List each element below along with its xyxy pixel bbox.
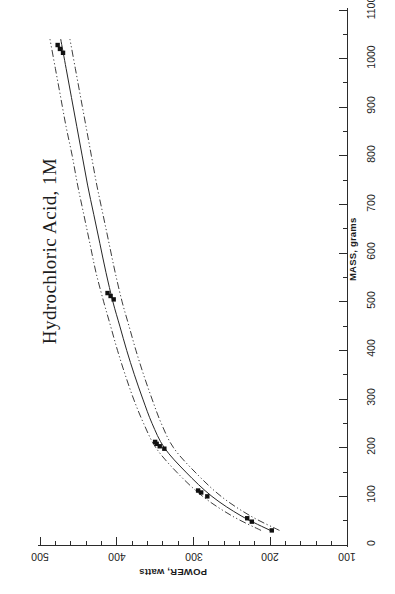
data-point	[205, 494, 209, 498]
data-point	[55, 43, 59, 47]
data-point	[105, 291, 109, 295]
data-point	[196, 488, 200, 492]
plot-area	[0, 0, 395, 594]
data-point	[58, 47, 62, 51]
data-point	[162, 447, 166, 451]
data-point	[270, 528, 274, 532]
data-point	[250, 519, 254, 523]
curve-group	[50, 39, 279, 530]
data-point	[245, 516, 249, 520]
data-point	[153, 440, 157, 444]
curve-fitted-curve	[61, 39, 271, 530]
data-point	[61, 51, 65, 55]
chart-canvas: Hydrochloric Acid, 1M 010020030040050060…	[0, 0, 395, 594]
curve-upper-confidence-band	[50, 39, 261, 530]
curve-lower-confidence-band	[70, 39, 280, 530]
